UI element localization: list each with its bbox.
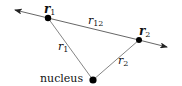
electron-diagram: r1 r2 r12 r1 r2 nucleus [0,0,182,86]
nucleus-label: nucleus [40,72,83,85]
r12-axis-right-arrow [139,40,167,47]
electron2-label: r2 [139,24,150,39]
r2-line [93,40,139,80]
nucleus-dot [89,76,96,83]
r1-label: r1 [58,40,68,54]
r2-label: r2 [118,54,128,68]
r12-label: r12 [88,14,103,28]
electron1-label: r1 [44,2,55,17]
